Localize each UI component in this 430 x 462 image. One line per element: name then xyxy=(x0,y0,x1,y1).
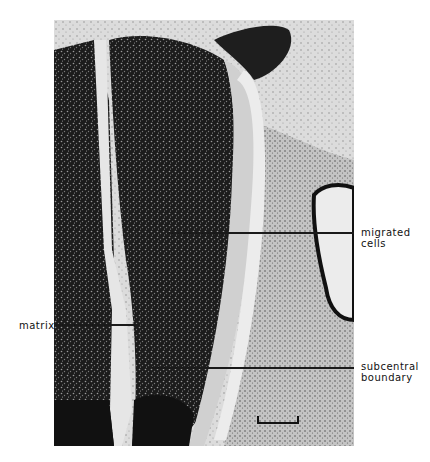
label-subcentral-boundary: subcentral boundary xyxy=(361,361,419,383)
scale-bar xyxy=(257,416,299,424)
figure: migrated cells matrix subcentral boundar… xyxy=(0,0,430,462)
label-migrated-cells: migrated cells xyxy=(361,227,411,249)
subcentral-boundary-leader xyxy=(152,367,354,369)
matrix-leader xyxy=(56,324,140,326)
label-matrix: matrix xyxy=(19,320,55,331)
migrated-cells-leader xyxy=(167,232,354,234)
